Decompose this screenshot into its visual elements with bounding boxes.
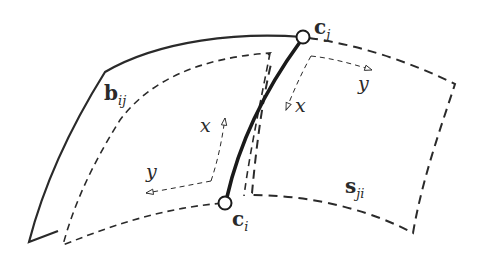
b-ij-dashed-right-edge bbox=[244, 53, 270, 196]
b-ij-outer-boundary bbox=[29, 36, 303, 242]
label-s-ji: sji bbox=[345, 174, 364, 201]
right-frame-x-label: x bbox=[295, 94, 306, 116]
patch-diagram: cj ci bij sji x y y x bbox=[0, 0, 484, 254]
left-frame-y-axis bbox=[146, 181, 211, 193]
label-c-j: cj bbox=[314, 15, 330, 42]
label-b-ij: bij bbox=[104, 81, 126, 108]
right-frame-y-label: y bbox=[357, 72, 369, 94]
right-frame-y-axis bbox=[311, 56, 372, 70]
point-c-i bbox=[219, 197, 232, 210]
left-frame-x-label: x bbox=[200, 114, 211, 136]
left-frame-origin-guide bbox=[211, 118, 225, 181]
point-c-j bbox=[297, 31, 310, 44]
shared-boundary-curve bbox=[227, 42, 300, 197]
label-c-i: ci bbox=[232, 207, 248, 234]
left-frame-y-label: y bbox=[145, 160, 157, 182]
